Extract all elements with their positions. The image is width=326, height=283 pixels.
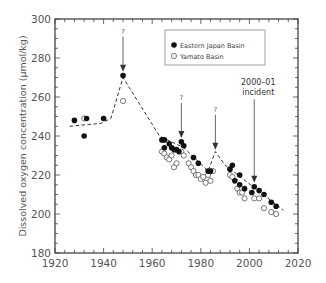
y-tick-label: 300 [31, 13, 51, 25]
point-eastern-japan [101, 116, 107, 122]
annotation-label: 2000–01 [241, 78, 276, 87]
point-eastern-japan [176, 149, 182, 155]
annotation-arrow-head [178, 131, 184, 138]
y-tick-label: 260 [31, 91, 51, 103]
point-eastern-japan [273, 203, 279, 209]
point-eastern-japan [237, 172, 243, 178]
point-eastern-japan [120, 73, 126, 79]
y-tick-label: 180 [31, 247, 51, 259]
point-yamato [169, 153, 174, 158]
x-tick-label: 1960 [139, 257, 166, 269]
legend-label-eastern: Eastern Japan Basin [180, 42, 245, 50]
point-eastern-japan [162, 137, 168, 143]
annotation-arrow-head [120, 65, 126, 72]
point-yamato [203, 180, 208, 185]
point-eastern-japan [251, 184, 257, 190]
point-yamato [120, 98, 125, 103]
point-yamato [252, 196, 257, 201]
legend: Eastern Japan Basin Yamato Basin [165, 30, 265, 65]
y-tick-label: 200 [31, 208, 51, 220]
point-eastern-japan [81, 133, 87, 139]
point-eastern-japan [208, 168, 214, 174]
y-tick-label: 280 [31, 52, 51, 64]
x-tick-label: 1940 [90, 257, 117, 269]
annotation-label-line2: incident [242, 88, 274, 97]
point-eastern-japan [249, 190, 255, 196]
y-axis-label: Dissolved oxygen concentration (µmol/kg) [17, 35, 28, 236]
point-eastern-japan [237, 182, 243, 188]
question-mark: ? [121, 28, 125, 36]
point-yamato [242, 196, 247, 201]
point-eastern-japan [196, 161, 202, 167]
point-yamato [261, 206, 266, 211]
annotation-arrow-head [251, 176, 257, 183]
point-eastern-japan [191, 155, 197, 161]
question-mark: ? [180, 94, 184, 102]
y-tick-label: 220 [31, 169, 51, 181]
x-tick-label: 2020 [285, 257, 312, 269]
point-yamato [257, 196, 262, 201]
annotation-arrow-head [212, 143, 218, 150]
chart: 1920194019601980200020201802002202402602… [0, 0, 326, 283]
point-eastern-japan [181, 143, 187, 149]
x-tick-label: 1980 [187, 257, 214, 269]
point-eastern-japan [268, 200, 274, 206]
point-yamato [208, 178, 213, 183]
legend-marker-open [171, 53, 176, 58]
question-mark: ? [214, 106, 218, 114]
x-tick-label: 2000 [236, 257, 263, 269]
y-tick-label: 240 [31, 130, 51, 142]
point-yamato [269, 209, 274, 214]
point-eastern-japan [232, 178, 238, 184]
point-eastern-japan [230, 162, 236, 168]
legend-label-yamato: Yamato Basin [179, 53, 224, 61]
point-eastern-japan [242, 186, 248, 192]
point-eastern-japan [72, 118, 78, 124]
point-yamato [181, 153, 186, 158]
point-yamato [201, 174, 206, 179]
point-eastern-japan [162, 145, 168, 151]
point-eastern-japan [261, 192, 267, 198]
point-yamato [174, 161, 179, 166]
point-eastern-japan [256, 188, 262, 194]
point-eastern-japan [84, 116, 90, 122]
point-yamato [274, 211, 279, 216]
legend-marker-filled [171, 42, 177, 48]
